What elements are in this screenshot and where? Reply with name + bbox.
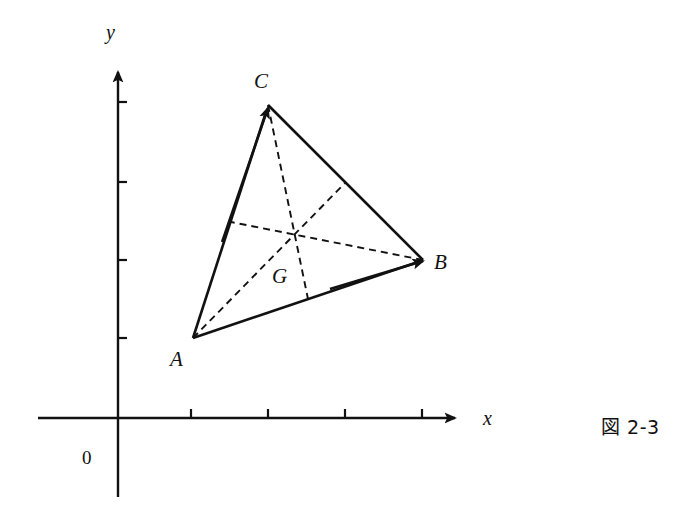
x-axis-ticks bbox=[191, 409, 422, 418]
vertex-label-C: C bbox=[254, 71, 268, 92]
origin-label: 0 bbox=[82, 448, 92, 467]
centroid-label-G: G bbox=[272, 266, 287, 287]
vector-arrowheads-group bbox=[222, 108, 423, 289]
median-B-to-midCA bbox=[231, 222, 423, 260]
vertex-label-A: A bbox=[170, 349, 183, 370]
geometry-diagram bbox=[0, 0, 687, 513]
figure-caption: 図 2-3 bbox=[601, 412, 660, 439]
side-BC bbox=[268, 105, 423, 260]
vector-arrow-to-B bbox=[330, 261, 423, 289]
median-A-to-midBC bbox=[193, 183, 345, 338]
x-axis-label: x bbox=[483, 408, 492, 428]
y-axis-label: y bbox=[106, 22, 115, 42]
figure-container: C B A G y x 0 図 2-3 bbox=[0, 0, 687, 513]
vertex-label-B: B bbox=[434, 252, 447, 273]
medians-group bbox=[193, 105, 423, 338]
vector-arrow-to-C bbox=[222, 108, 268, 242]
y-axis-ticks bbox=[118, 102, 127, 338]
